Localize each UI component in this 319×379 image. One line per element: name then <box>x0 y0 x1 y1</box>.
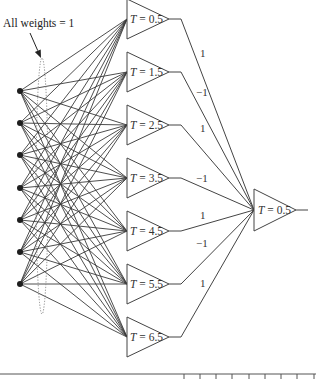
input-node <box>17 217 23 223</box>
connection-line <box>20 231 127 284</box>
hidden-to-output-wire <box>169 210 254 284</box>
input-node <box>17 281 23 287</box>
hidden-to-output-wire <box>169 178 254 210</box>
hidden-to-output-wire <box>169 72 254 210</box>
hidden-unit: T = 3.5 <box>127 158 169 198</box>
threshold-label: T = 6.5 <box>130 331 163 343</box>
threshold-label: T = 4.5 <box>130 225 163 237</box>
threshold-network-diagram: T = 0.5T = 1.5T = 2.5T = 3.5T = 4.5T = 5… <box>0 0 319 379</box>
input-node <box>17 152 23 158</box>
threshold-label: T = 0.5 <box>130 13 163 25</box>
connection-line <box>20 72 127 91</box>
hidden-to-output-connections: 1−11−11−11 <box>169 19 254 337</box>
hidden-to-output-wire <box>169 125 254 210</box>
hidden-to-output-wire <box>169 210 254 231</box>
input-node <box>17 88 23 94</box>
all-weights-annotation: All weights = 1 <box>3 17 75 58</box>
connection-line <box>20 123 127 125</box>
weight-label: −1 <box>196 237 208 249</box>
annotation-arrow-icon <box>30 33 38 51</box>
threshold-label: T = 2.5 <box>130 119 163 131</box>
hidden-unit: T = 6.5 <box>127 317 169 357</box>
connection-line <box>20 188 127 284</box>
connection-line <box>20 19 127 123</box>
weight-label: 1 <box>200 277 206 289</box>
output-unit: T = 0.5 <box>254 189 308 231</box>
connection-line <box>20 231 127 252</box>
threshold-label: T = 5.5 <box>130 278 163 290</box>
input-node <box>17 249 23 255</box>
hidden-unit: T = 0.5 <box>127 0 169 39</box>
all-weights-label: All weights = 1 <box>3 17 75 30</box>
arrowhead-icon <box>35 49 41 58</box>
hidden-unit: T = 1.5 <box>127 52 169 92</box>
connection-line <box>20 72 127 123</box>
weight-label: −1 <box>196 172 208 184</box>
input-node <box>17 185 23 191</box>
weight-label: −1 <box>196 86 208 98</box>
threshold-label: T = 1.5 <box>130 66 163 78</box>
output-threshold-label: T = 0.5 <box>258 204 291 216</box>
threshold-label: T = 3.5 <box>130 172 163 184</box>
weight-label: 1 <box>200 209 206 221</box>
hidden-unit: T = 4.5 <box>127 211 169 251</box>
input-node <box>17 120 23 126</box>
weight-label: 1 <box>200 122 206 134</box>
bottom-ruler <box>0 374 316 379</box>
hidden-layer: T = 0.5T = 1.5T = 2.5T = 3.5T = 4.5T = 5… <box>127 0 169 357</box>
connection-line <box>20 220 127 337</box>
input-to-hidden-connections <box>20 19 127 337</box>
hidden-to-output-wire <box>169 19 254 210</box>
hidden-unit: T = 2.5 <box>127 105 169 145</box>
hidden-unit: T = 5.5 <box>127 264 169 304</box>
connection-line <box>20 19 127 252</box>
weight-label: 1 <box>200 47 206 59</box>
input-layer <box>17 88 23 287</box>
hidden-to-output-wire <box>169 210 254 337</box>
